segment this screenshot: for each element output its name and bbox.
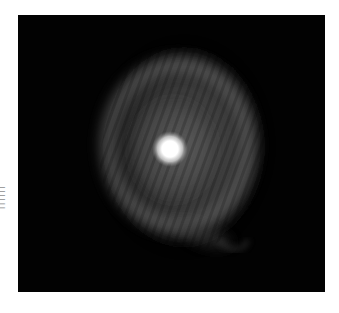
figure-panel: |||||| xyxy=(0,0,339,313)
astronomical-image xyxy=(18,15,325,292)
clipped-axis-label: |||||| xyxy=(0,186,6,244)
nebula-render xyxy=(18,15,325,292)
